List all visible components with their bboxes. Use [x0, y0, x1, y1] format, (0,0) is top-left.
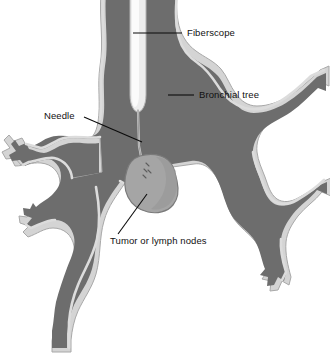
tumor-or-lymph-nodes-label: Tumor or lymph nodes: [110, 235, 207, 246]
bronchial-tree-label: Bronchial tree: [199, 89, 259, 100]
fiberscope-label: Fiberscope: [187, 27, 235, 38]
illustration-canvas: Fiberscope Bronchial tree Needle Tumor o…: [0, 0, 330, 355]
medical-illustration-figure: Fiberscope Bronchial tree Needle Tumor o…: [0, 0, 330, 355]
needle-label: Needle: [44, 110, 75, 121]
fiberscope-structure: [130, 0, 146, 112]
fiberscope-highlight: [132, 0, 139, 107]
tumor-or-lymph-node-mass: [125, 154, 178, 212]
